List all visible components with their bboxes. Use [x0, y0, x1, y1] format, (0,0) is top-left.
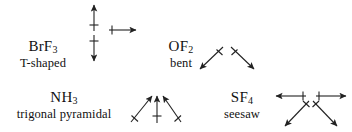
dipole-arrow-up-right [163, 96, 181, 122]
entry-sf4-vector-diagram [272, 90, 350, 132]
dipole-arrow-up [153, 96, 162, 123]
dipole-arrow-left [276, 92, 306, 101]
entry-brf3-formula-subscript: 3 [52, 44, 57, 55]
dipole-arrow-up-left [131, 96, 152, 122]
entry-of2-formula-base: OF [169, 38, 189, 54]
dipole-arrow-up [90, 5, 99, 31]
entry-of2-vector-diagram [196, 44, 258, 74]
dipole-arrow-down-right [231, 47, 254, 69]
entry-brf3-formula-base: BrF [28, 38, 52, 54]
entry-nh3-labels: NH3 trigonal pyramidal [2, 89, 126, 121]
dipole-arrow-down-left [285, 101, 310, 126]
entry-nh3-vector-diagram [128, 92, 184, 126]
entry-sf4-formula-subscript: 4 [248, 95, 253, 106]
dipole-arrow-down-right [313, 101, 338, 126]
dipole-arrow-right [316, 92, 346, 101]
entry-brf3-geometry: T-shaped [4, 56, 82, 71]
entry-sf4-formula: SF4 [206, 89, 278, 107]
entry-brf3-labels: BrF3 T-shaped [4, 38, 82, 70]
entry-sf4-formula-base: SF [231, 89, 248, 105]
molecular-geometry-figure: BrF3 T-shaped [0, 0, 352, 132]
entry-sf4-geometry: seesaw [206, 107, 278, 122]
entry-brf3-formula: BrF3 [4, 38, 82, 56]
entry-sf4-labels: SF4 seesaw [206, 89, 278, 121]
dipole-arrow-down [90, 35, 99, 61]
entry-brf3-vector-diagram [84, 2, 144, 64]
dipole-arrow-down-left [200, 47, 223, 69]
entry-nh3-formula-base: NH [50, 89, 72, 105]
entry-nh3-geometry: trigonal pyramidal [2, 107, 126, 122]
dipole-arrow-right [109, 26, 136, 35]
entry-nh3-formula-subscript: 3 [72, 95, 77, 106]
entry-of2-formula-subscript: 2 [188, 44, 193, 55]
entry-nh3-formula: NH3 [2, 89, 126, 107]
